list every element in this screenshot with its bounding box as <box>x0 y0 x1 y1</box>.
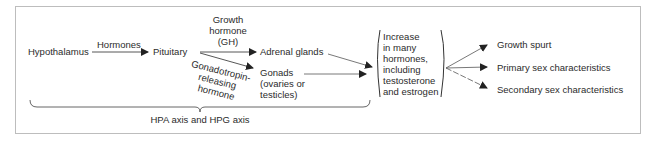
gonads-line-1: Gonads <box>260 67 305 78</box>
node-gonads: Gonads (ovaries or testicles) <box>260 67 305 100</box>
increase-line-6: and estrogen <box>383 86 438 97</box>
diagram-connectors <box>0 0 651 148</box>
gh-line-2: hormone <box>200 25 256 36</box>
edge-label-hormones: Hormones <box>97 39 141 50</box>
edge-label-growth-hormone: Growth hormone (GH) <box>200 14 256 47</box>
arrow-adrenal-to-increase <box>328 54 372 67</box>
gh-line-3: (GH) <box>200 36 256 47</box>
node-adrenal-glands: Adrenal glands <box>260 46 323 57</box>
increase-line-1: Increase <box>383 31 438 42</box>
outcome-secondary-sex: Secondary sex characteristics <box>497 84 623 95</box>
gonads-line-3: testicles) <box>260 89 305 100</box>
gonads-line-2: (ovaries or <box>260 78 305 89</box>
outcome-growth-spurt: Growth spurt <box>497 39 551 50</box>
increase-bracket-left <box>378 30 381 97</box>
brace-label: HPA axis and HPG axis <box>130 114 270 125</box>
node-hypothalamus: Hypothalamus <box>28 46 89 57</box>
increase-line-5: testosterone <box>383 75 438 86</box>
hpa-hpg-brace <box>30 100 370 112</box>
increase-line-3: hormones, <box>383 53 438 64</box>
gh-line-1: Growth <box>200 14 256 25</box>
increase-line-2: in many <box>383 42 438 53</box>
increase-bracket-right <box>441 30 444 97</box>
node-increase-hormones: Increase in many hormones, including tes… <box>383 31 438 97</box>
arrow-to-growth-spurt <box>446 45 487 68</box>
arrow-to-primary <box>446 67 487 68</box>
arrow-to-secondary <box>446 68 487 88</box>
outcome-primary-sex: Primary sex characteristics <box>497 62 611 73</box>
increase-line-4: including <box>383 64 438 75</box>
node-pituitary: Pituitary <box>153 46 187 57</box>
